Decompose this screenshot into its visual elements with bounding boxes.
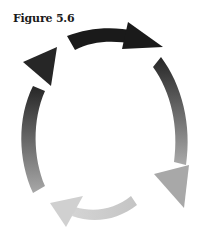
- cycle-arrow-top: [67, 22, 163, 50]
- cycle-arrow-right: [153, 57, 189, 208]
- cycle-arrow-bottom: [50, 196, 137, 227]
- cycle-arrow-left: [21, 47, 57, 193]
- cycle-diagram: [0, 0, 206, 243]
